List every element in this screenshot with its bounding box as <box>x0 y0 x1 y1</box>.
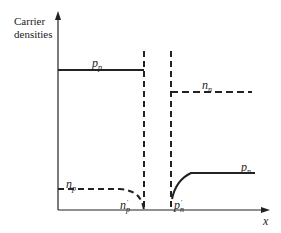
y-axis-label-line1: Carrier <box>14 15 53 28</box>
y-axis-label: Carrier densities <box>14 15 53 41</box>
x-axis-arrow-icon <box>261 207 270 213</box>
pn-label: pn <box>241 158 251 176</box>
y-axis-arrow-icon <box>55 11 61 20</box>
pn-curve <box>172 173 255 199</box>
np-label: np <box>66 175 76 193</box>
nn-label: nn <box>202 76 212 94</box>
y-axis-label-line2: densities <box>14 28 53 41</box>
np-prime-label: np' <box>120 196 128 214</box>
pn-prime-label: pn' <box>174 196 182 214</box>
pp-label: pp <box>92 54 102 72</box>
x-axis-label: x <box>263 215 268 227</box>
